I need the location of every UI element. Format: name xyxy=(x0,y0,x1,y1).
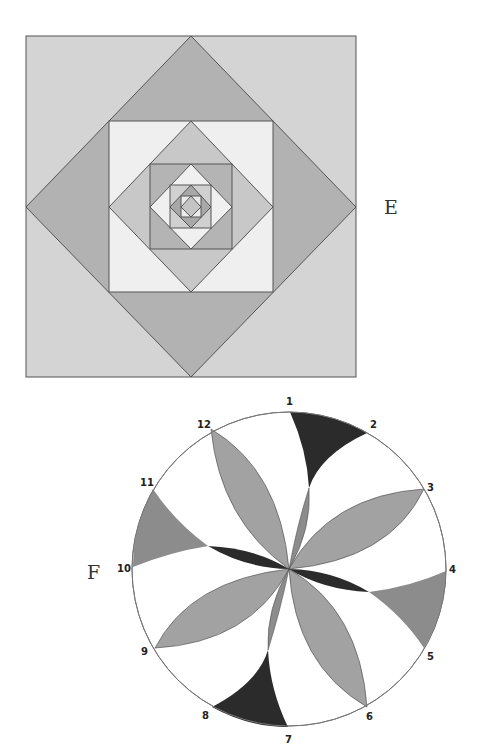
point-label-10: 10 xyxy=(117,563,131,574)
point-label-4: 4 xyxy=(449,564,456,575)
point-label-2: 2 xyxy=(370,419,377,430)
point-label-5: 5 xyxy=(427,651,434,662)
circle-group xyxy=(132,412,446,727)
point-label-7: 7 xyxy=(285,734,292,745)
figure-f-circle-petals: 1 2 3 4 5 6 7 8 9 10 11 12 xyxy=(0,0,478,751)
point-label-1: 1 xyxy=(286,396,293,407)
point-label-3: 3 xyxy=(427,482,434,493)
point-label-11: 11 xyxy=(140,477,154,488)
point-label-12: 12 xyxy=(197,419,211,430)
point-label-8: 8 xyxy=(202,710,209,721)
point-label-9: 9 xyxy=(141,646,148,657)
point-label-6: 6 xyxy=(366,711,373,722)
figure-label-f: F xyxy=(87,561,100,583)
